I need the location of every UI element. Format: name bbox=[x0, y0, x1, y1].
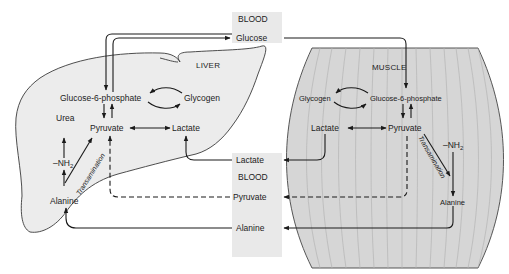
liver-g6p-label: Glucose-6-phosphate bbox=[60, 93, 141, 103]
muscle-pyruvate-label: Pyruvate bbox=[388, 123, 422, 133]
arrow-blood-alanine-to-liver bbox=[66, 208, 232, 228]
blood-box-bottom bbox=[232, 153, 282, 257]
liver-pyruvate-label: Pyruvate bbox=[90, 123, 124, 133]
muscle-nh2-label: –NH2 bbox=[443, 140, 463, 153]
muscle-tissue bbox=[287, 48, 504, 268]
blood-bottom-title: BLOOD bbox=[238, 172, 268, 182]
liver-alanine-label: Alanine bbox=[50, 196, 78, 206]
blood-lactate-label: Lactate bbox=[236, 155, 264, 165]
liver-glycogen-label: Glycogen bbox=[184, 93, 220, 103]
muscle-title: MUSCLE bbox=[372, 63, 407, 73]
liver-urea-label: Urea bbox=[56, 113, 74, 123]
glucose-alanine-cori-cycle-diagram: BLOOD Glucose Lactate BLOOD Pyruvate Ala… bbox=[0, 0, 509, 274]
liver-nh2-label: –NH2 bbox=[53, 158, 73, 171]
blood-alanine-label: Alanine bbox=[236, 223, 264, 233]
muscle-lactate-label: Lactate bbox=[311, 123, 339, 133]
liver-lactate-label: Lactate bbox=[172, 123, 200, 133]
muscle-alanine-label: Alanine bbox=[440, 198, 465, 208]
muscle-glycogen-label: Glycogen bbox=[299, 94, 331, 104]
blood-glucose-label: Glucose bbox=[236, 33, 267, 43]
blood-top-title: BLOOD bbox=[238, 14, 268, 24]
liver-title: LIVER bbox=[196, 61, 220, 71]
blood-pyruvate-label: Pyruvate bbox=[233, 192, 267, 202]
muscle-g6p-label: Glucose-6-phosphate bbox=[370, 94, 442, 104]
